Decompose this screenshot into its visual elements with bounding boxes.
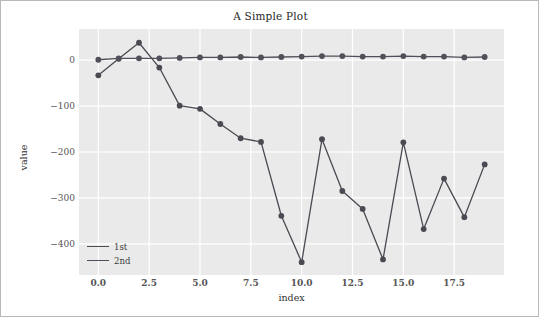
x-tick-label: 17.5 (424, 278, 484, 288)
data-point (116, 55, 122, 61)
data-point (380, 54, 386, 60)
data-point (482, 54, 488, 60)
data-point (482, 161, 488, 167)
data-point (339, 53, 345, 59)
data-point (360, 206, 366, 212)
data-point (400, 139, 406, 145)
data-point (421, 226, 427, 232)
legend-label: 2nd (114, 256, 130, 266)
chart-legend: 1st2nd (87, 241, 130, 266)
plot-area: 1st2nd (79, 29, 504, 275)
data-point (400, 53, 406, 59)
chart-title: A Simple Plot (1, 10, 539, 22)
data-point (441, 176, 447, 182)
data-point (177, 55, 183, 61)
data-point (461, 214, 467, 220)
data-point (441, 54, 447, 60)
legend-label: 1st (114, 242, 127, 252)
data-point (136, 55, 142, 61)
data-point (217, 55, 223, 61)
y-tick-label: −400 (5, 239, 75, 249)
data-point (136, 40, 142, 46)
data-point (278, 213, 284, 219)
data-point (177, 103, 183, 109)
y-axis-tick-labels: 0−100−200−300−400 (1, 1, 75, 317)
legend-swatch-icon (87, 260, 109, 261)
data-point (299, 259, 305, 265)
data-point (197, 55, 203, 61)
data-point (461, 55, 467, 61)
data-point (258, 139, 264, 145)
x-axis-label: index (79, 292, 504, 303)
data-point (156, 55, 162, 61)
legend-item-2nd[interactable]: 2nd (87, 255, 130, 266)
data-point (319, 53, 325, 59)
data-point (95, 57, 101, 63)
data-point (360, 54, 366, 60)
data-point (156, 65, 162, 71)
y-tick-label: −100 (5, 101, 75, 111)
data-point (278, 54, 284, 60)
legend-item-1st[interactable]: 1st (87, 241, 130, 252)
legend-swatch-icon (87, 246, 109, 247)
data-point (258, 55, 264, 61)
data-point (339, 188, 345, 194)
data-point (299, 54, 305, 60)
series-line-2nd (98, 56, 484, 60)
data-point (421, 54, 427, 60)
data-point (319, 136, 325, 142)
data-point (197, 106, 203, 112)
series-line-1st (98, 43, 484, 262)
y-axis-label: value (18, 118, 29, 198)
series-lines (79, 29, 504, 275)
chart-figure: A Simple Plot 0−100−200−300−400 value 1s… (0, 0, 539, 317)
data-point (95, 72, 101, 78)
y-tick-label: −300 (5, 193, 75, 203)
data-point (217, 121, 223, 127)
data-point (238, 54, 244, 60)
y-tick-label: −200 (5, 147, 75, 157)
data-point (238, 135, 244, 141)
y-tick-label: 0 (5, 55, 75, 65)
data-point (380, 257, 386, 263)
